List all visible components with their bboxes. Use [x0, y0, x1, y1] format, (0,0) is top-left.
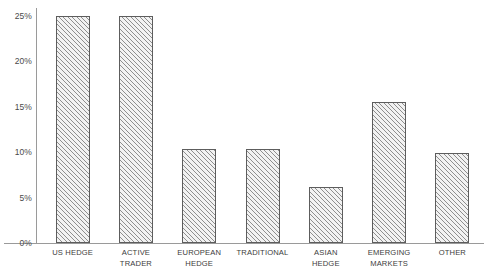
- bar-slot: [295, 0, 357, 243]
- bar-chart: 0%5%10%15%20%25% US HEDGEACTIVE TRADEREU…: [0, 0, 488, 278]
- bar[interactable]: [309, 187, 343, 243]
- bar-slot: [105, 0, 167, 243]
- bar[interactable]: [372, 102, 406, 243]
- bar-slot: [421, 0, 483, 243]
- bar[interactable]: [246, 149, 280, 243]
- bar-slot: [358, 0, 420, 243]
- bar-slot: [42, 0, 104, 243]
- bar[interactable]: [182, 149, 216, 243]
- bar-slot: [168, 0, 230, 243]
- x-axis-category-labels: US HEDGEACTIVE TRADEREUROPEAN HEDGETRADI…: [0, 248, 488, 278]
- bar[interactable]: [435, 153, 469, 243]
- bar-series: [0, 0, 488, 278]
- bar-slot: [232, 0, 294, 243]
- bar[interactable]: [119, 16, 153, 243]
- bar[interactable]: [56, 16, 90, 243]
- x-axis-category-label: OTHER: [413, 248, 488, 259]
